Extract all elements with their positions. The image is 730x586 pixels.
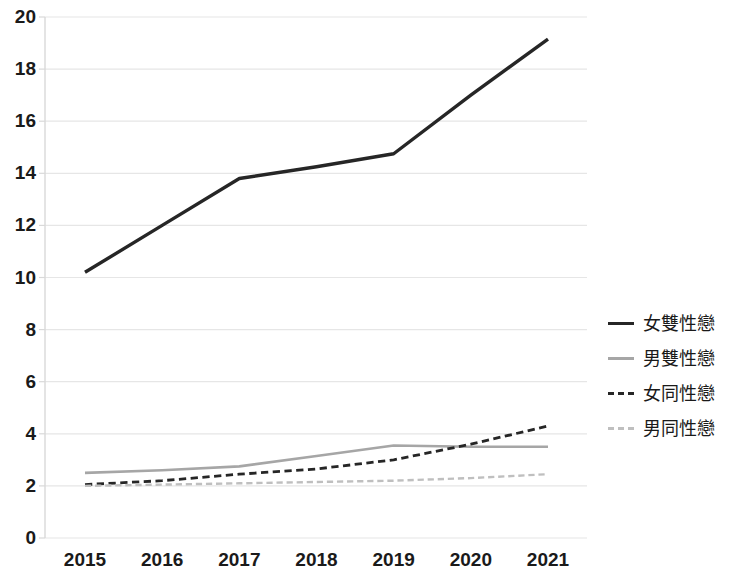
legend-marker-solid-gray-icon: [608, 357, 634, 360]
line-chart: 20181614121086420 2015201620172018201920…: [0, 0, 730, 586]
legend-label-3: 男同性戀: [643, 420, 715, 438]
y-tick-label-0: 0: [0, 527, 36, 549]
legend-item-0[interactable]: 女雙性戀: [608, 306, 730, 341]
legend-marker-solid-dark-icon: [608, 322, 634, 325]
legend-label-2: 女同性戀: [643, 385, 715, 403]
y-tick-label-12: 12: [0, 214, 36, 236]
gridlines: [39, 17, 587, 538]
plot-area: [0, 0, 730, 586]
legend-item-2[interactable]: 女同性戀: [608, 376, 730, 411]
x-tick-label-2021: 2021: [503, 549, 593, 571]
legend-item-1[interactable]: 男雙性戀: [608, 341, 730, 376]
y-tick-label-4: 4: [0, 423, 36, 445]
series-line-3: [85, 474, 548, 486]
chart-legend: 女雙性戀 男雙性戀 女同性戀 男同性戀: [608, 306, 730, 446]
series-line-0: [85, 39, 548, 272]
y-tick-label-14: 14: [0, 162, 36, 184]
legend-item-3[interactable]: 男同性戀: [608, 411, 730, 446]
y-tick-label-2: 2: [0, 475, 36, 497]
y-tick-label-20: 20: [0, 6, 36, 28]
legend-marker-dashed-dark-icon: [608, 392, 634, 395]
y-tick-label-16: 16: [0, 110, 36, 132]
y-tick-label-10: 10: [0, 267, 36, 289]
legend-label-1: 男雙性戀: [643, 350, 715, 368]
series-lines: [85, 39, 548, 486]
legend-marker-dashed-gray-icon: [608, 427, 634, 430]
y-tick-label-18: 18: [0, 58, 36, 80]
y-tick-label-8: 8: [0, 319, 36, 341]
y-tick-label-6: 6: [0, 371, 36, 393]
legend-label-0: 女雙性戀: [643, 315, 715, 333]
series-line-1: [85, 446, 548, 473]
